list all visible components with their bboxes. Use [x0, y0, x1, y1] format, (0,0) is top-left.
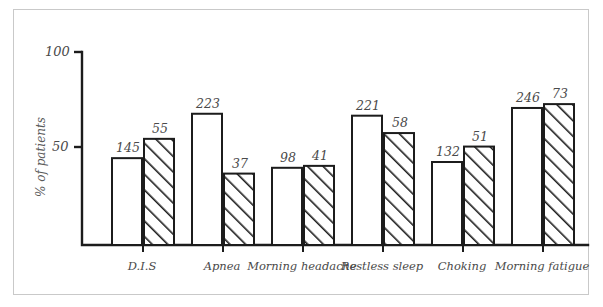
bar-hatched-restless-sleep: [384, 133, 414, 245]
bar-hatched-morning-headache: [304, 166, 334, 245]
x-axis-category-label: Morning fatigue: [484, 259, 600, 273]
bar-value-label: 246: [510, 92, 546, 105]
bar-white-d-i-s: [112, 158, 142, 245]
y-tick-label-100: 100: [45, 45, 70, 58]
bar-value-label: 55: [142, 123, 178, 136]
bar-value-label: 221: [350, 100, 386, 113]
bar-value-label: 145: [110, 142, 146, 155]
bar-value-label: 37: [222, 158, 258, 171]
bar-value-label: 223: [190, 98, 226, 111]
y-tick-label-50: 50: [52, 140, 69, 153]
bar-value-label: 132: [430, 146, 466, 159]
bar-hatched-apnea: [224, 174, 254, 245]
bar-white-apnea: [192, 114, 222, 245]
bar-value-label: 41: [302, 150, 338, 163]
y-axis-label: % of patients: [34, 102, 48, 212]
bar-hatched-morning-fatigue: [544, 104, 574, 245]
bar-value-label: 73: [542, 88, 578, 101]
bar-hatched-choking: [464, 147, 494, 245]
bar-white-restless-sleep: [352, 116, 382, 245]
bar-value-label: 98: [270, 152, 306, 165]
figure-page: % of patients 100 50 14555D.I.S22337Apne…: [0, 0, 603, 307]
bar-value-label: 51: [462, 131, 498, 144]
bar-white-morning-headache: [272, 168, 302, 245]
bar-value-label: 58: [382, 117, 418, 130]
bar-white-choking: [432, 162, 462, 245]
bar-white-morning-fatigue: [512, 108, 542, 245]
bar-hatched-d-i-s: [144, 139, 174, 245]
bar-group-layer: [112, 104, 574, 252]
